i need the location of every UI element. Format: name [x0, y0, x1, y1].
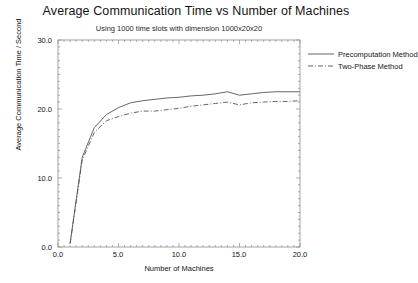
- axis-ticks: [58, 40, 300, 247]
- axis-frame: [58, 40, 300, 247]
- series-line-two-phase-method: [70, 101, 300, 244]
- legend-label-precomputation: Precomputation Method: [338, 50, 418, 59]
- data-series-layer: [70, 92, 300, 244]
- legend-label-two-phase: Two-Phase Method: [338, 62, 403, 71]
- series-line-precomputation-method: [70, 92, 300, 244]
